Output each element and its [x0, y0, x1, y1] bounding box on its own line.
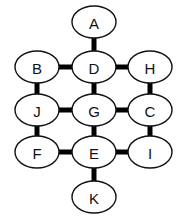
node-label: F [32, 145, 41, 162]
node-e: E [72, 136, 116, 168]
graph-diagram: ABDHJGCFEIK [0, 0, 182, 217]
node-label: E [89, 145, 99, 162]
node-b: B [15, 51, 59, 83]
node-label: J [33, 103, 41, 120]
node-f: F [15, 136, 59, 168]
node-i: I [128, 136, 172, 168]
node-label: C [145, 103, 156, 120]
node-label: I [148, 145, 152, 162]
node-j: J [15, 94, 59, 126]
node-label: D [89, 60, 100, 77]
node-label: A [89, 15, 99, 32]
nodes-layer: ABDHJGCFEIK [15, 6, 172, 213]
node-label: K [89, 190, 99, 207]
node-a: A [72, 6, 116, 38]
node-k: K [72, 181, 116, 213]
node-g: G [72, 94, 116, 126]
node-label: G [88, 103, 100, 120]
node-h: H [128, 51, 172, 83]
node-c: C [128, 94, 172, 126]
node-d: D [72, 51, 116, 83]
node-label: B [32, 60, 42, 77]
node-label: H [145, 60, 156, 77]
